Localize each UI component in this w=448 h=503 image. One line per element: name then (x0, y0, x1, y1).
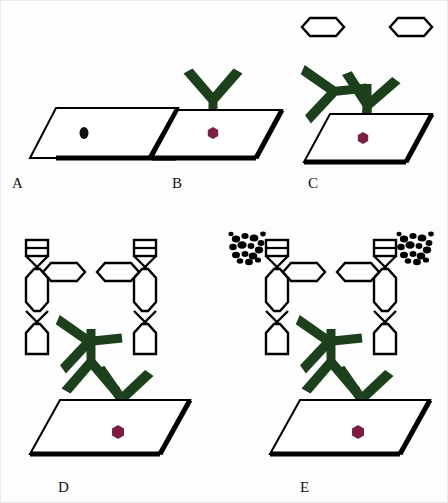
hexagon-linker-left-e (283, 263, 325, 281)
hexagon-linker-left-c (302, 18, 344, 36)
panel-label-e: E (300, 479, 309, 495)
panel-label-c: C (308, 175, 318, 191)
analyte-dot-a (80, 127, 89, 139)
panel-label-a: A (12, 175, 23, 191)
figure-root: A B (0, 0, 448, 503)
hexagon-linker-right-e (337, 263, 379, 281)
dendrimer-chain-right-e (374, 240, 396, 354)
hexagon-linker-right-c (390, 18, 432, 36)
immunoassay-schematic: A B (0, 0, 448, 503)
hexagon-linker-right-d (97, 263, 139, 281)
panel-label-b: B (172, 175, 182, 191)
dendrimer-chain-right-d (134, 240, 156, 354)
hexagon-linker-left-d (43, 263, 85, 281)
dendrimer-chain-left-d (26, 240, 48, 354)
dendrimer-chain-left-e (266, 240, 288, 354)
panel-label-d: D (58, 479, 69, 495)
